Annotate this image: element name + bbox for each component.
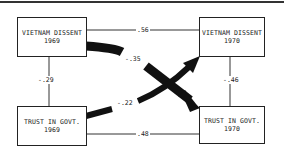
edge-label-tg69-vd70: -.22 [116, 99, 134, 107]
node-year: 1969 [44, 37, 60, 45]
edge-label-1970-sync: -.46 [222, 76, 240, 84]
node-year: 1970 [224, 37, 240, 45]
edge-label-tg-stability: .48 [136, 130, 150, 138]
node-vietnam-dissent-1969: VIETNAM DISSENT 1969 [17, 17, 87, 57]
edge-label-1969-sync: -.29 [37, 76, 55, 84]
node-vietnam-dissent-1970: VIETNAM DISSENT 1970 [199, 17, 265, 57]
node-year: 1970 [224, 125, 240, 133]
node-label: TRUST IN GOVT. [204, 117, 260, 125]
edge-label-vd-stability: .56 [136, 26, 150, 34]
node-trust-govt-1969: TRUST IN GOVT. 1969 [17, 106, 87, 146]
edge-label-vd69-tg70: -.35 [124, 55, 142, 63]
node-trust-govt-1970: TRUST IN GOVT. 1970 [199, 106, 265, 144]
node-label: VIETNAM DISSENT [22, 29, 82, 37]
node-label: VIETNAM DISSENT [202, 29, 262, 37]
node-year: 1969 [44, 126, 60, 134]
node-label: TRUST IN GOVT. [24, 118, 80, 126]
